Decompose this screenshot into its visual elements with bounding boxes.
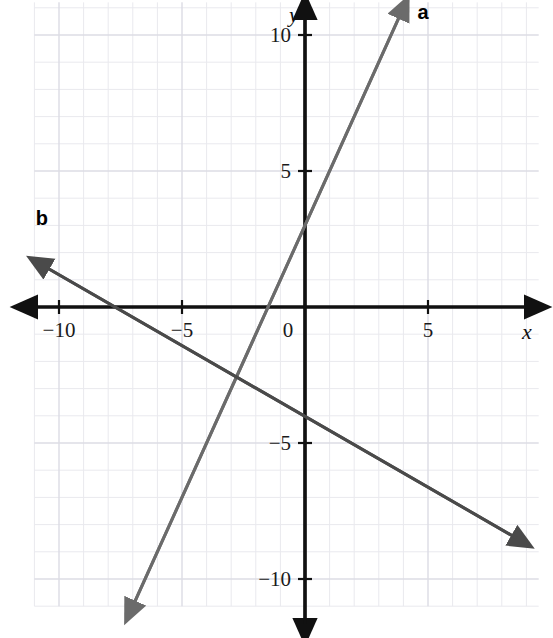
series-label-a: a xyxy=(418,1,430,23)
origin-label: 0 xyxy=(283,318,294,342)
graph-figure: −10−55105−5−10 ab x y 0 xyxy=(0,0,553,638)
x-tick-label: −5 xyxy=(171,318,193,342)
y-tick-label: −5 xyxy=(269,431,291,455)
y-tick-label: 10 xyxy=(270,23,291,47)
series-label-b: b xyxy=(36,207,48,229)
y-tick-label: −10 xyxy=(258,567,291,591)
x-axis-label: x xyxy=(521,319,532,344)
coordinate-plane: −10−55105−5−10 ab x y 0 xyxy=(0,0,553,638)
figure-background xyxy=(0,0,553,638)
x-tick-label: 5 xyxy=(423,318,434,342)
y-tick-label: 5 xyxy=(281,159,292,183)
x-tick-label: −10 xyxy=(43,318,76,342)
y-axis-label: y xyxy=(287,2,299,27)
